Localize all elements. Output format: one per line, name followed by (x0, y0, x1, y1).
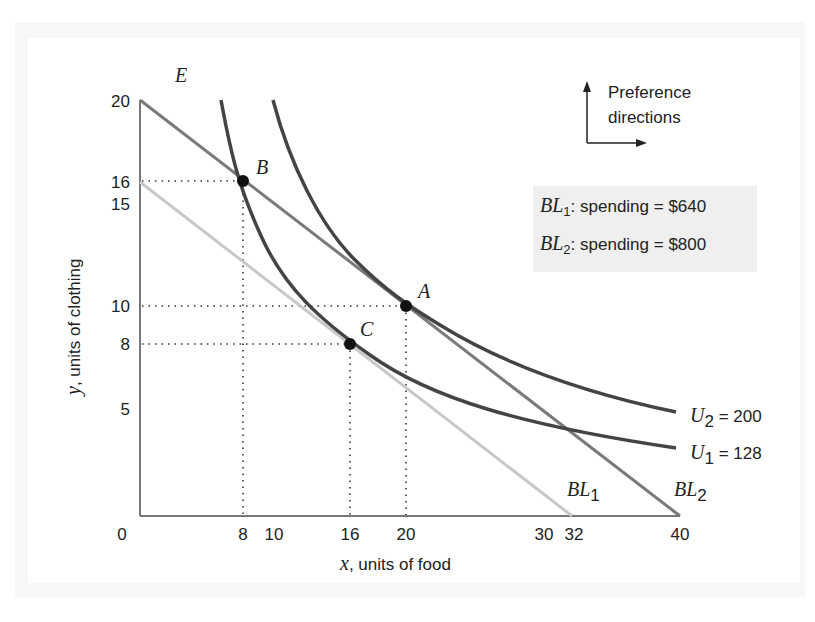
label-e: E (174, 64, 187, 86)
label-u1: U1 = 128 (690, 441, 762, 468)
label-u2: U2 = 200 (690, 404, 762, 431)
preference-directions-label: Preference directions (608, 80, 691, 130)
label-bl2: BL2 (674, 478, 707, 505)
x-tick-labels: 0 8 10 16 20 30 32 40 (117, 525, 689, 544)
guide-lines (142, 181, 406, 515)
x-axis-title: x, units of food (339, 552, 451, 574)
svg-text:10: 10 (111, 297, 130, 316)
svg-text:20: 20 (111, 92, 130, 111)
y-axis-title: y, units of clothing (62, 259, 85, 397)
point-b (237, 175, 249, 187)
svg-text:15: 15 (111, 195, 130, 214)
svg-text:8: 8 (238, 525, 247, 544)
svg-text:16: 16 (341, 525, 360, 544)
y-tick-labels: 20 16 15 10 8 5 (111, 92, 130, 419)
legend-bl1: BL1: spending = $640 (540, 194, 706, 219)
svg-text:0: 0 (117, 525, 126, 544)
label-bl1: BL1 (567, 478, 600, 505)
svg-text:5: 5 (121, 400, 130, 419)
svg-text:40: 40 (671, 525, 690, 544)
svg-text:20: 20 (397, 525, 416, 544)
svg-text:8: 8 (121, 335, 130, 354)
svg-text:30: 30 (535, 525, 554, 544)
label-a: A (416, 280, 431, 302)
chart-svg: E B A C 20 16 15 10 8 5 0 8 10 16 20 30 … (0, 0, 815, 622)
budget-line-bl1 (140, 182, 572, 516)
svg-text:16: 16 (111, 173, 130, 192)
label-b: B (256, 156, 268, 178)
legend-bl2: BL2: spending = $800 (540, 232, 706, 257)
svg-text:10: 10 (265, 525, 284, 544)
label-c: C (360, 318, 374, 340)
point-a (400, 300, 412, 312)
svg-text:32: 32 (565, 525, 584, 544)
point-c (344, 338, 356, 350)
